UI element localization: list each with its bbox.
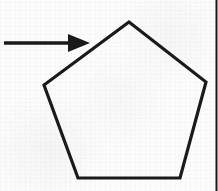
geometry-figure-svg — [0, 0, 218, 191]
figure-canvas — [0, 0, 218, 191]
arrow-head-icon — [68, 34, 90, 52]
